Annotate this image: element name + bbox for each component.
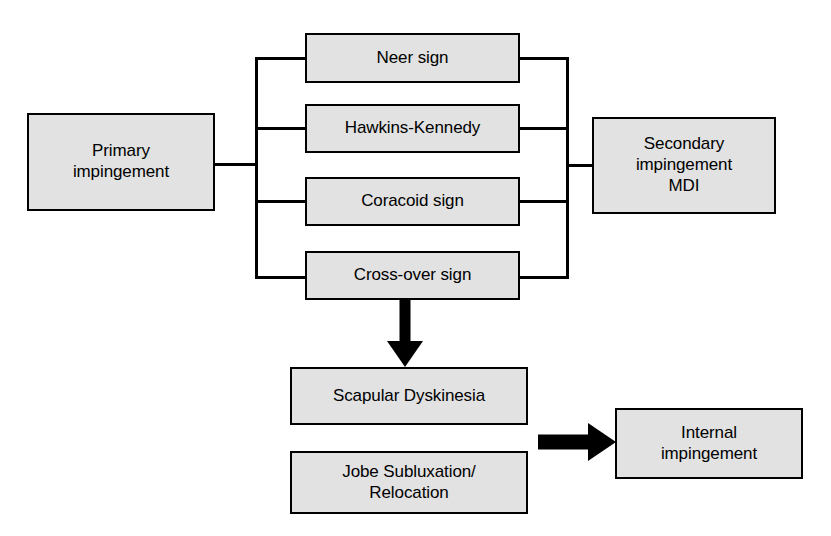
flowchart-canvas: Primary impingement Neer sign Hawkins-Ke… — [0, 0, 831, 536]
connector-primary-stub — [214, 163, 258, 166]
connector-secondary-stub — [566, 164, 594, 167]
connector-neer-to-right — [518, 57, 569, 60]
node-hawkins-kennedy[interactable]: Hawkins-Kennedy — [305, 104, 520, 153]
arrow-jobe-to-internal — [538, 423, 616, 461]
connector-left-to-crossover — [255, 276, 307, 279]
connector-hawkins-to-right — [518, 127, 569, 130]
connector-right-bus — [566, 57, 569, 278]
arrow-head — [588, 423, 616, 461]
connector-crossover-to-right — [518, 276, 569, 279]
arrow-crossover-to-scapular — [387, 299, 423, 367]
node-secondary-impingement-mdi[interactable]: Secondary impingement MDI — [592, 117, 776, 214]
connector-left-to-hawkins — [255, 127, 307, 130]
node-coracoid-sign[interactable]: Coracoid sign — [305, 177, 520, 226]
node-cross-over-sign[interactable]: Cross-over sign — [305, 251, 520, 300]
arrow-shaft — [400, 299, 411, 344]
connector-coracoid-to-right — [518, 200, 569, 203]
arrow-head — [387, 341, 423, 367]
node-jobe-subluxation-relocation[interactable]: Jobe Subluxation/ Relocation — [290, 451, 528, 514]
node-scapular-dyskinesia[interactable]: Scapular Dyskinesia — [290, 367, 528, 425]
node-internal-impingement[interactable]: Internal impingement — [615, 408, 803, 479]
connector-left-to-coracoid — [255, 200, 307, 203]
arrow-shaft — [538, 435, 590, 450]
node-neer-sign[interactable]: Neer sign — [305, 33, 520, 83]
node-primary-impingement[interactable]: Primary impingement — [27, 113, 215, 211]
connector-left-to-neer — [255, 57, 307, 60]
connector-left-bus — [255, 57, 258, 278]
